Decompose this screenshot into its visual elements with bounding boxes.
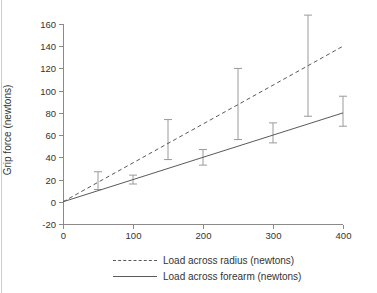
chart-canvas: -200204060801001201401600100200300400Gri… [0,0,377,248]
series-line-forearm [63,113,343,202]
legend-label-radius: Load across radius (newtons) [163,255,294,266]
grip-force-figure: -200204060801001201401600100200300400Gri… [0,0,377,293]
y-tick-label: 20 [45,175,56,186]
x-tick-label: 200 [196,230,212,241]
x-tick-label: 0 [61,230,66,241]
solid-line-sample [113,276,157,277]
legend-label-forearm: Load across forearm (newtons) [163,271,301,282]
y-tick-label: 140 [40,41,56,52]
x-tick-label: 100 [126,230,142,241]
y-tick-label: 0 [51,197,56,208]
legend-item-radius: Load across radius (newtons) [113,252,301,268]
y-tick-label: 100 [40,86,56,97]
x-tick-label: 400 [336,230,352,241]
y-tick-label: -20 [42,219,56,230]
y-tick-label: 120 [40,63,56,74]
x-tick-label: 300 [266,230,282,241]
y-tick-label: 40 [45,152,56,163]
series-line-radius [63,46,343,202]
y-tick-label: 160 [40,19,56,30]
chart-legend: Load across radius (newtons) Load across… [113,252,301,284]
y-tick-label: 80 [45,108,56,119]
y-axis-title: Grip force (newtons) [2,85,13,176]
legend-item-forearm: Load across forearm (newtons) [113,268,301,284]
dashed-line-sample [113,260,157,261]
y-tick-label: 60 [45,130,56,141]
